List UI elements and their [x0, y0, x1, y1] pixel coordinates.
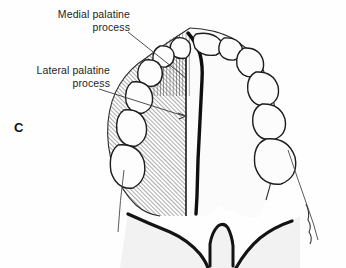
lateral-palatine-process-label: Lateral palatine process	[12, 64, 110, 89]
medial-palatine-process-label: Medial palatine process	[34, 8, 130, 33]
panel-letter: C	[14, 120, 23, 135]
anatomical-figure-panel: Medial palatine process Lateral palatine…	[0, 0, 346, 268]
palate-illustration	[0, 0, 346, 268]
posterior-palate-shading	[120, 214, 300, 268]
